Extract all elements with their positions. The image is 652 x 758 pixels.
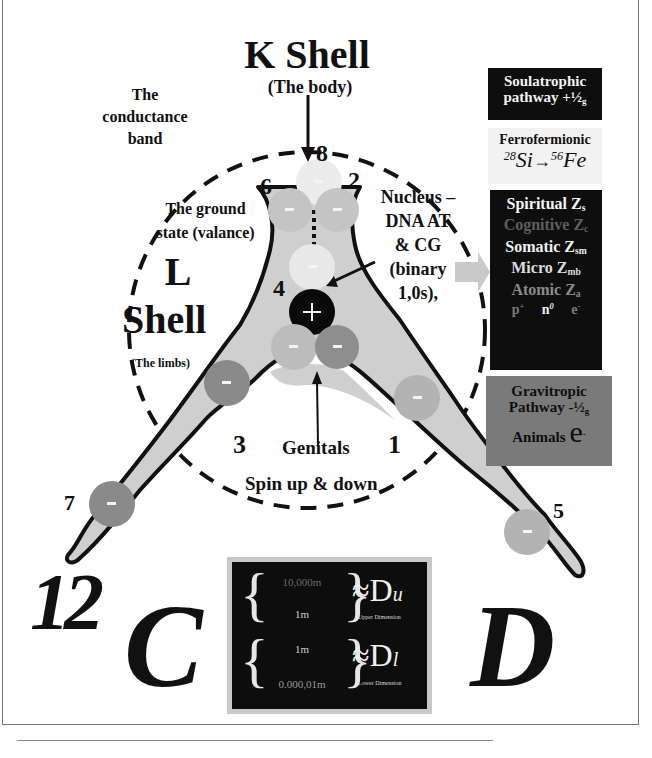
lower-dimension-symbol: ≈Dl [352,639,398,671]
lower-dimension-caption: Lower Dimension [358,680,402,686]
arrow-right-icon: → [533,151,551,171]
upper-dimension-symbol: ≈Du [352,574,403,606]
electron-number-8: 8 [316,141,328,165]
level-cognitive: Cognitive Zc [490,217,602,234]
level-somatic: Somatic Zsm [490,239,602,256]
particles-row: p+ n0 e- [490,303,602,318]
electron-number-3: 3 [233,432,246,458]
ferrofermionic-panel: Ferrofermionic 28Si→56Fe [488,128,602,184]
letter-c: C [124,588,203,706]
nucleus-label: Nucleus – DNA AT & CG (binary 1,0s), [368,185,468,305]
level-spiritual: Spiritual Zs [490,196,602,213]
upper-bottom-value: 1m [262,609,342,620]
lower-top-value: 1m [262,644,342,655]
letter-d: D [470,588,555,706]
upper-dimension-caption: Upper Dimension [358,614,401,620]
ground-state-label: The ground state (valance) [148,197,263,245]
electron-number-4: 4 [273,276,285,300]
genitals-label: Genitals [282,438,350,457]
level-micro: Micro Zmb [490,260,602,277]
gravitropic-panel: Gravitropic Pathway -½g Animals e- [486,376,612,466]
levels-panel: Spiritual Zs Cognitive Zc Somatic Zsm Mi… [490,190,602,370]
electron-number-1: 1 [388,432,401,458]
spin-label: Spin up & down [245,474,378,493]
l-shell-letter: L [148,252,208,292]
electron-number-5: 5 [553,500,564,522]
k-shell-subtitle: (The body) [240,78,380,96]
lower-bottom-value: 0.000,01m [262,679,342,690]
upper-top-value: 10,000m [262,577,342,588]
carbon-mass-12: 12 [30,562,98,642]
electron-number-6: 6 [260,174,272,198]
l-shell-subtitle: (The limbs) [131,357,190,369]
conductance-band-label: The conductance band [90,84,200,150]
k-shell-title: K Shell [222,35,392,75]
level-atomic: Atomic Za [490,282,602,299]
genitals-arrow [317,380,318,445]
soulatrophic-panel: Soulatrophic pathway +½g [488,68,602,120]
l-shell-word: Shell [122,300,206,340]
electron-number-2: 2 [348,168,360,192]
electron-number-7: 7 [64,492,75,514]
